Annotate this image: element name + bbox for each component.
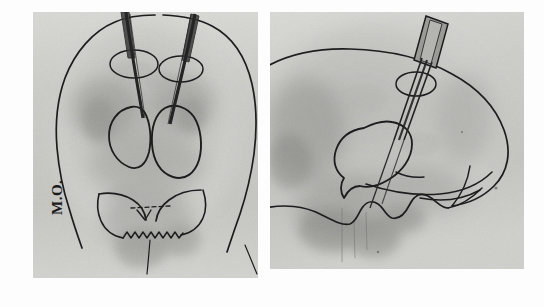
figure-root: M.O. L xyxy=(0,0,544,307)
ap-film-image xyxy=(33,12,258,278)
lateral-film-image xyxy=(270,12,524,269)
ap-coronal-radiograph: M.O. L xyxy=(33,12,258,278)
film-id-annotation: M.O. xyxy=(49,180,66,215)
lateral-radiograph xyxy=(270,12,524,269)
